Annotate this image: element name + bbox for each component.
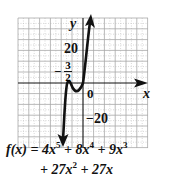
fraction-minus: − bbox=[54, 65, 61, 78]
axes bbox=[18, 18, 140, 148]
origin-label: 0 bbox=[87, 87, 94, 100]
y-axis-label: y bbox=[70, 17, 76, 31]
function-graph bbox=[0, 0, 170, 150]
y-tick-neg20: −20 bbox=[86, 112, 108, 126]
y-tick-20: 20 bbox=[64, 42, 78, 56]
x-axis-label: x bbox=[143, 87, 150, 101]
equation-line-2: + 27x2 + 27x bbox=[40, 160, 113, 178]
fraction-denominator: 2 bbox=[64, 72, 72, 83]
equation-line-1: f(x) = 4x5 + 8x4 + 9x3 bbox=[6, 140, 127, 158]
